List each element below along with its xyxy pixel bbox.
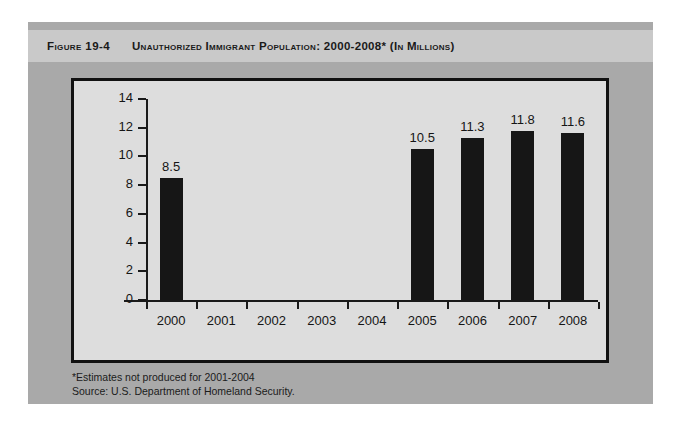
- x-axis-tick: [447, 302, 449, 309]
- x-axis-tick-label: 2007: [508, 313, 537, 328]
- x-axis-tick-label: 2006: [458, 313, 487, 328]
- y-axis-tick: 0: [138, 299, 146, 301]
- x-axis-tick: [146, 302, 148, 309]
- chart-plot-area: 0246810121420008.52001200220032004200510…: [71, 78, 609, 363]
- y-axis-tick-label: 12: [119, 119, 133, 134]
- x-axis-tick: [347, 302, 349, 309]
- x-axis-tick: [498, 302, 500, 309]
- y-axis-tick-label: 8: [126, 176, 133, 191]
- bar: [561, 133, 584, 300]
- bar: [511, 131, 534, 300]
- bar: [411, 149, 434, 300]
- x-axis-tick-label: 2008: [558, 313, 587, 328]
- bar-value-label: 11.8: [510, 112, 534, 127]
- x-axis-tick: [246, 302, 248, 309]
- figure-notes: *Estimates not produced for 2001-2004 So…: [72, 370, 632, 398]
- y-axis-tick: 14: [138, 98, 146, 100]
- bar: [461, 138, 484, 300]
- x-axis-tick-label: 2002: [257, 313, 286, 328]
- y-axis-tick-label: 0: [126, 291, 133, 306]
- y-axis-tick-label: 10: [119, 147, 133, 162]
- figure-card: Figure 19-4 Unauthorized Immigrant Popul…: [28, 22, 653, 404]
- bar-value-label: 10.5: [410, 130, 435, 145]
- x-axis-tick: [548, 302, 550, 309]
- x-axis-tick-label: 2000: [157, 313, 186, 328]
- x-axis-line: [124, 300, 598, 302]
- x-axis-tick: [598, 302, 600, 309]
- x-axis-tick: [397, 302, 399, 309]
- y-axis-tick: 6: [138, 213, 146, 215]
- y-axis-tick-label: 14: [119, 90, 133, 105]
- y-axis-tick-label: 6: [126, 205, 133, 220]
- footnote-text: *Estimates not produced for 2001-2004: [72, 370, 632, 384]
- x-axis-tick-label: 2003: [307, 313, 336, 328]
- figure-title-label: Unauthorized Immigrant Population: 2000-…: [132, 40, 455, 52]
- y-axis-tick-label: 4: [126, 234, 133, 249]
- y-axis-tick: 10: [138, 155, 146, 157]
- x-axis-tick-label: 2005: [408, 313, 437, 328]
- y-axis-line: [146, 99, 148, 301]
- chart-canvas: 0246810121420008.52001200220032004200510…: [74, 81, 606, 360]
- bar-value-label: 11.3: [460, 119, 484, 134]
- x-axis-tick-label: 2004: [358, 313, 387, 328]
- figure-number-label: Figure 19-4: [47, 40, 110, 52]
- x-axis-tick: [297, 302, 299, 309]
- bar: [160, 178, 183, 300]
- figure-title-band: Figure 19-4 Unauthorized Immigrant Popul…: [28, 30, 653, 62]
- bar-value-label: 11.6: [561, 114, 585, 129]
- bar-value-label: 8.5: [162, 159, 180, 174]
- x-axis-tick: [196, 302, 198, 309]
- y-axis-tick-label: 2: [126, 262, 133, 277]
- y-axis-tick: 4: [138, 242, 146, 244]
- source-text: Source: U.S. Department of Homeland Secu…: [72, 384, 632, 398]
- figure-root: Figure 19-4 Unauthorized Immigrant Popul…: [0, 0, 683, 425]
- y-axis-tick: 2: [138, 270, 146, 272]
- y-axis-tick: 12: [138, 127, 146, 129]
- x-axis-tick-label: 2001: [207, 313, 236, 328]
- y-axis-tick: 8: [138, 184, 146, 186]
